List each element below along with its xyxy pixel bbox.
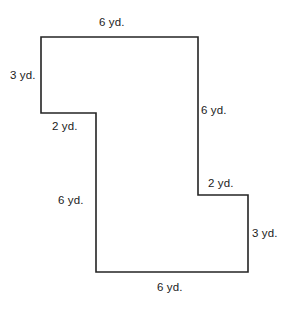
dimension-label-upper-left: 3 yd.	[10, 68, 35, 82]
dimension-label-middle-left: 6 yd.	[58, 193, 83, 207]
polygon-outline	[41, 37, 248, 272]
dimension-label-right-lower: 3 yd.	[252, 226, 277, 240]
dimension-label-right-upper: 6 yd.	[201, 103, 226, 117]
dimension-label-lower-notch: 2 yd.	[208, 176, 233, 190]
dimension-label-bottom: 6 yd.	[157, 280, 182, 294]
dimension-label-top: 6 yd.	[99, 15, 124, 29]
irregular-polygon-shape	[0, 0, 298, 309]
figure-canvas: 6 yd. 3 yd. 2 yd. 6 yd. 6 yd. 2 yd. 3 yd…	[0, 0, 298, 309]
dimension-label-upper-notch: 2 yd.	[52, 119, 77, 133]
